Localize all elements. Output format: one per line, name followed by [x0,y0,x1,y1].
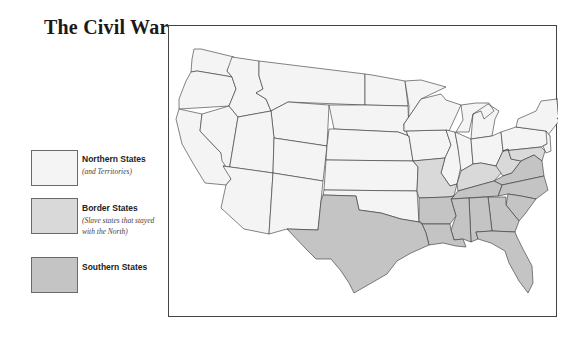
map-frame [168,25,557,317]
page-title: The Civil War [44,16,168,39]
legend-note-border-line1: (Slave states that stayed [82,215,154,226]
state-new-mexico [269,173,323,234]
us-map [169,26,558,318]
state-oregon [179,71,236,109]
legend-label-southern: Southern States [82,262,147,272]
state-mississippi [451,198,471,242]
legend-swatch-northern [31,150,78,186]
legend-swatch-southern [31,257,78,293]
state-arkansas [419,196,456,224]
state-nebraska [326,129,413,161]
state-kansas [324,160,418,191]
state-michigan [456,103,499,139]
legend-note-border-line2: with the North) [82,226,128,237]
state-florida [476,231,533,293]
legend-note-northern: (and Territories) [82,166,132,177]
legend-label-northern: Northern States [82,154,146,164]
legend-label-border: Border States [82,203,138,213]
legend-swatch-border [31,198,78,234]
state-north-dakota [365,74,408,106]
